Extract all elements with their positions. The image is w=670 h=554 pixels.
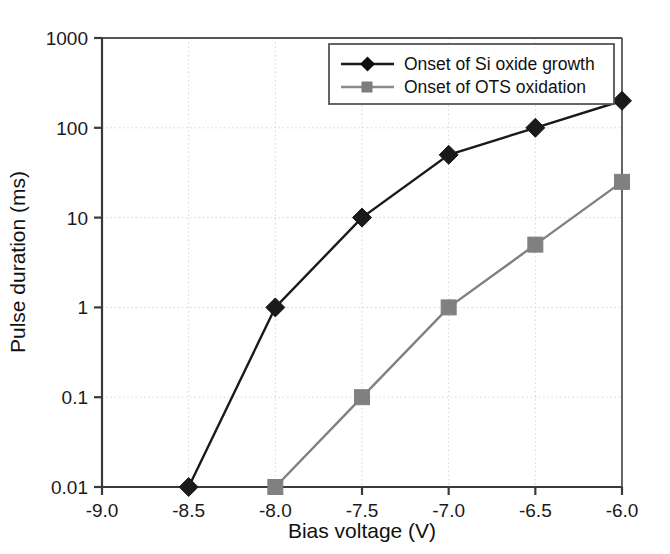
y-tick-label: 10	[67, 208, 88, 229]
data-point-marker	[526, 118, 545, 137]
data-point-marker	[355, 390, 370, 405]
x-tick-label: -7.0	[432, 500, 465, 521]
x-tick-label: -6.0	[606, 500, 639, 521]
y-tick-label: 0.01	[51, 477, 88, 498]
y-tick-label: 100	[56, 118, 88, 139]
y-tick-label: 1000	[46, 28, 88, 49]
data-point-marker	[613, 91, 632, 110]
legend-label-si-oxide: Onset of Si oxide growth	[404, 54, 595, 74]
square-icon	[362, 82, 373, 93]
y-axis-ticks: 0.010.11101001000	[46, 28, 102, 498]
x-tick-label: -8.0	[259, 500, 292, 521]
legend-label-ots: Onset of OTS oxidation	[404, 77, 586, 97]
gridlines	[102, 38, 622, 487]
legend: Onset of Si oxide growth Onset of OTS ox…	[329, 44, 614, 104]
chart-canvas: 0.010.11101001000 -9.0-8.5-8.0-7.5-7.0-6…	[0, 0, 670, 554]
y-axis-title: Pulse duration (ms)	[6, 171, 29, 353]
data-point-marker	[439, 145, 458, 164]
chart-figure: 0.010.11101001000 -9.0-8.5-8.0-7.5-7.0-6…	[0, 0, 670, 554]
y-tick-label: 0.1	[62, 387, 88, 408]
x-tick-label: -6.5	[519, 500, 552, 521]
x-axis-title: Bias voltage (V)	[288, 519, 436, 542]
series-diamond	[179, 91, 631, 496]
y-tick-label: 1	[77, 297, 88, 318]
x-tick-label: -9.0	[86, 500, 119, 521]
x-tick-label: -8.5	[172, 500, 205, 521]
x-axis-ticks: -9.0-8.5-8.0-7.5-7.0-6.5-6.0	[86, 487, 639, 521]
series-line	[189, 101, 622, 487]
data-point-marker	[615, 174, 630, 189]
data-point-marker	[528, 237, 543, 252]
x-tick-label: -7.5	[346, 500, 379, 521]
data-point-marker	[268, 480, 283, 495]
data-point-marker	[441, 300, 456, 315]
data-point-marker	[179, 478, 198, 497]
data-series	[179, 91, 631, 496]
